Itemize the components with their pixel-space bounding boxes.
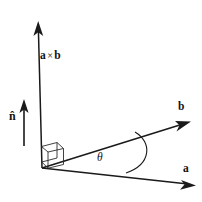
vector-a-arrowhead bbox=[180, 180, 196, 190]
label-vector-b: b bbox=[178, 101, 184, 113]
right-angle-marker-edge-right bbox=[57, 143, 64, 149]
label-vector-a: a bbox=[183, 163, 189, 175]
right-angle-marker-edge-top bbox=[42, 147, 49, 153]
vector-a-cross-b-glyph bbox=[33, 21, 43, 168]
label-a-cross-b: a×b bbox=[40, 50, 61, 62]
label-a-cross-b-operand-b: b bbox=[54, 49, 61, 61]
figure-canvas bbox=[0, 0, 202, 202]
multiplication-sign-icon: × bbox=[46, 50, 54, 61]
label-unit-normal: n̂ bbox=[9, 110, 16, 122]
unit-normal-glyph bbox=[19, 99, 28, 146]
label-angle-theta: θ bbox=[97, 152, 103, 164]
vector-a-shaft bbox=[42, 168, 188, 184]
vector-b-glyph bbox=[42, 121, 191, 168]
vector-a-glyph bbox=[42, 168, 196, 190]
vector-cross-product-figure: a×b n̂ b a θ bbox=[0, 0, 202, 202]
right-angle-marker-back-face bbox=[42, 143, 58, 163]
